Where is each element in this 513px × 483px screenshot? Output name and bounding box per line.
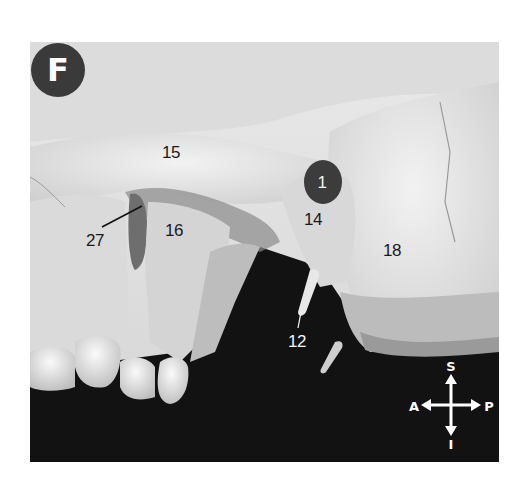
skull-photograph: [30, 42, 499, 462]
label-27: 27: [86, 232, 104, 249]
compass-inferior: I: [449, 438, 454, 451]
skull-illustration: [30, 42, 499, 462]
label-15: 15: [162, 144, 180, 161]
compass-superior: S: [446, 360, 455, 373]
label-12: 12: [288, 333, 306, 350]
panel-letter-badge: F: [31, 43, 85, 97]
label-16: 16: [165, 222, 183, 239]
panel-letter: F: [47, 51, 69, 89]
compass-posterior: P: [484, 400, 494, 413]
compass-anterior: A: [409, 400, 419, 413]
label-1: 1: [318, 174, 327, 191]
label-18: 18: [383, 242, 401, 259]
label-14: 14: [304, 211, 322, 228]
